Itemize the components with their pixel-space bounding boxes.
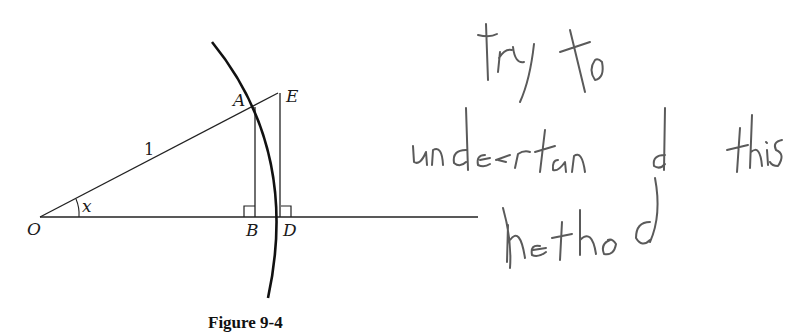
label-e: E	[285, 86, 299, 106]
right-angle-mark-d	[281, 206, 291, 217]
figure-caption: Figure 9-4	[208, 313, 283, 332]
label-angle-x: x	[82, 196, 92, 216]
angle-arc-x	[76, 199, 79, 217]
label-d: D	[282, 220, 297, 240]
unit-circle-arc	[212, 42, 277, 298]
label-radius-1: 1	[144, 140, 154, 159]
handwritten-note	[413, 24, 782, 268]
segment-oe	[40, 93, 278, 217]
figure-9-4: O x 1 A E B D Figure 9-4	[0, 0, 805, 336]
label-o: O	[27, 219, 41, 239]
label-b: B	[245, 220, 259, 240]
label-a: A	[231, 90, 245, 110]
right-angle-mark-b	[244, 206, 255, 217]
